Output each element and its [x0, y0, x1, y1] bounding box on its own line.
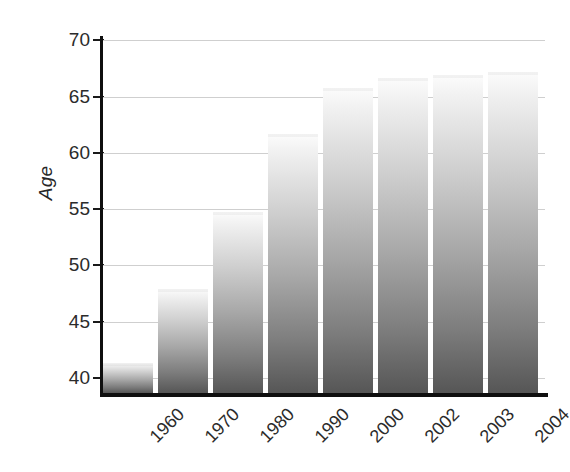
y-axis-tick-labels: 70 65 60 55 50 45 40 — [56, 0, 90, 472]
y-tick-label: 50 — [56, 254, 90, 276]
x-tick-label: 1960 — [146, 404, 189, 447]
y-tick-label: 40 — [56, 367, 90, 389]
bar-1970 — [158, 289, 208, 393]
bar-top-edge — [323, 88, 373, 91]
bar-top-edge — [488, 72, 538, 75]
bar-2004 — [488, 72, 538, 393]
x-axis-line — [100, 393, 548, 397]
y-axis-title: Age — [35, 153, 57, 213]
x-tick-label: 1990 — [311, 404, 354, 447]
x-tick-label: 1980 — [256, 404, 299, 447]
y-tick-label: 45 — [56, 311, 90, 333]
x-tick-label: 2002 — [421, 404, 464, 447]
bar-1960 — [103, 363, 153, 393]
bar-top-edge — [213, 212, 263, 215]
bar-1980 — [213, 212, 263, 393]
bar-1990 — [268, 134, 318, 393]
bar-top-edge — [103, 363, 153, 366]
x-tick-label: 2004 — [531, 404, 570, 447]
bar-2002 — [378, 78, 428, 393]
bar-top-edge — [268, 134, 318, 137]
bar-2003 — [433, 75, 483, 393]
x-tick-label: 2000 — [366, 404, 409, 447]
bar-2000 — [323, 88, 373, 393]
gridline — [103, 40, 545, 41]
y-tick-label: 55 — [56, 198, 90, 220]
y-tick-label: 65 — [56, 86, 90, 108]
x-tick-label: 1970 — [201, 404, 244, 447]
x-tick-label: 2003 — [476, 404, 519, 447]
bar-top-edge — [378, 78, 428, 81]
y-tick-label: 70 — [56, 29, 90, 51]
bar-top-edge — [433, 75, 483, 78]
bar-chart: Age 70 65 60 55 50 45 40 1960 197 — [0, 0, 570, 472]
y-tick-label: 60 — [56, 142, 90, 164]
plot-area — [103, 36, 548, 393]
bar-top-edge — [158, 289, 208, 292]
